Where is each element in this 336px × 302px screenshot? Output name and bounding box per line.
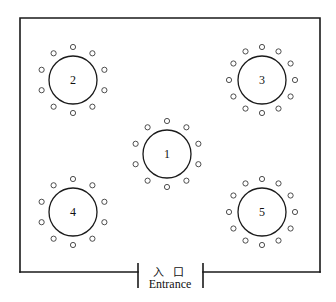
seat-marker (102, 199, 107, 204)
seat-marker (276, 181, 281, 186)
seat-marker (90, 183, 95, 188)
seat-marker (226, 209, 231, 214)
seat-marker (70, 44, 75, 49)
seat-marker (39, 67, 44, 72)
seat-marker (102, 67, 107, 72)
table-number-4: 4 (70, 205, 76, 219)
seat-marker (70, 176, 75, 181)
seat-marker (259, 242, 264, 247)
seat-marker (51, 51, 56, 56)
seat-marker (51, 104, 56, 109)
table-group-5: 5 (226, 176, 297, 247)
seat-marker (184, 125, 189, 130)
seat-marker (226, 77, 231, 82)
seat-marker (231, 61, 236, 66)
seat-marker (259, 44, 264, 49)
seat-marker (164, 118, 169, 123)
entrance-label-en: Entrance (149, 277, 192, 291)
seat-marker (288, 61, 293, 66)
table-group-1: 1 (133, 118, 201, 189)
seat-marker (102, 88, 107, 93)
seat-marker (276, 106, 281, 111)
seat-marker (90, 51, 95, 56)
table-number-1: 1 (164, 147, 170, 161)
floorplan-diagram: 入 口Entrance 12345 (0, 0, 336, 302)
seat-marker (196, 141, 201, 146)
seat-marker (51, 183, 56, 188)
seat-marker (145, 125, 150, 130)
seat-marker (259, 176, 264, 181)
floorplan-canvas: 入 口Entrance 12345 (0, 0, 336, 302)
tables-group: 12345 (39, 44, 298, 247)
table-number-5: 5 (259, 205, 265, 219)
seat-marker (292, 77, 297, 82)
seat-marker (288, 193, 293, 198)
seat-marker (231, 226, 236, 231)
seat-marker (90, 104, 95, 109)
table-group-2: 2 (39, 44, 107, 115)
seat-marker (259, 110, 264, 115)
seat-marker (70, 242, 75, 247)
table-group-3: 3 (226, 44, 297, 115)
seat-marker (39, 199, 44, 204)
seat-marker (70, 110, 75, 115)
seat-marker (164, 184, 169, 189)
seat-marker (243, 181, 248, 186)
seat-marker (288, 94, 293, 99)
seat-marker (90, 236, 95, 241)
seat-marker (276, 238, 281, 243)
seat-marker (243, 49, 248, 54)
seat-marker (243, 238, 248, 243)
seat-marker (231, 94, 236, 99)
seat-marker (196, 162, 201, 167)
table-group-4: 4 (39, 176, 107, 247)
seat-marker (133, 141, 138, 146)
table-number-3: 3 (259, 73, 265, 87)
seat-marker (184, 178, 189, 183)
seat-marker (51, 236, 56, 241)
seat-marker (133, 162, 138, 167)
seat-marker (102, 220, 107, 225)
seat-marker (288, 226, 293, 231)
seat-marker (231, 193, 236, 198)
seat-marker (276, 49, 281, 54)
seat-marker (39, 220, 44, 225)
seat-marker (145, 178, 150, 183)
seat-marker (292, 209, 297, 214)
seat-marker (243, 106, 248, 111)
entrance-marker: 入 口Entrance (138, 263, 203, 291)
seat-marker (39, 88, 44, 93)
table-number-2: 2 (70, 73, 76, 87)
